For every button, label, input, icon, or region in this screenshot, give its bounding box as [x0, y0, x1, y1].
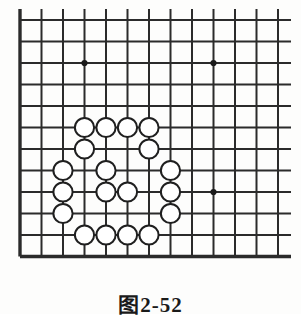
stone-white-9 — [53, 182, 72, 201]
stone-white-3 — [139, 118, 158, 137]
stone-white-8 — [161, 161, 180, 180]
stone-white-16 — [96, 225, 115, 244]
stone-white-13 — [53, 204, 72, 223]
stone-white-18 — [139, 225, 158, 244]
stone-white-12 — [161, 182, 180, 201]
stone-white-2 — [118, 118, 137, 137]
star-point-0 — [81, 60, 87, 66]
figure-caption-number: 2-52 — [140, 293, 183, 317]
stone-white-7 — [96, 161, 115, 180]
board-stones — [53, 118, 180, 245]
stone-white-17 — [118, 225, 137, 244]
stone-white-1 — [96, 118, 115, 137]
figure-caption: 图2-52 — [0, 288, 301, 318]
stone-white-0 — [75, 118, 94, 137]
stone-white-11 — [118, 182, 137, 201]
stone-white-5 — [139, 139, 158, 158]
stone-white-6 — [53, 161, 72, 180]
star-point-2 — [210, 189, 216, 195]
stone-white-14 — [161, 204, 180, 223]
stone-white-4 — [75, 139, 94, 158]
stone-white-15 — [75, 225, 94, 244]
go-board — [0, 0, 301, 290]
figure-caption-label: 图 — [118, 293, 140, 317]
star-point-1 — [210, 60, 216, 66]
stone-white-10 — [96, 182, 115, 201]
